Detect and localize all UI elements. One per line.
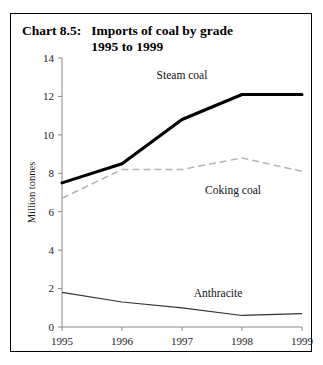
y-tick-label: 10 <box>43 129 55 141</box>
x-tick-label: 1999 <box>291 335 313 347</box>
series-line-anthracite <box>62 292 302 315</box>
y-tick-label: 12 <box>43 90 54 102</box>
plot-area: 02468101214 19951996199719981999 Million… <box>11 14 313 353</box>
y-axis-ticks: 02468101214 <box>43 52 62 333</box>
x-tick-label: 1997 <box>171 335 194 347</box>
x-tick-label: 1996 <box>111 335 134 347</box>
series-label-steam-coal: Steam coal <box>157 69 208 81</box>
y-tick-label: 0 <box>49 321 55 333</box>
y-tick-label: 2 <box>49 282 55 294</box>
y-tick-label: 6 <box>49 206 55 218</box>
y-axis-title: Million tonnes <box>26 162 37 224</box>
series-label-coking-coal: Coking coal <box>205 184 261 197</box>
series-label-anthracite: Anthracite <box>194 287 243 299</box>
series-annotations: Steam coalCoking coalAnthracite <box>157 69 261 299</box>
x-axis-ticks: 19951996199719981999 <box>51 327 313 347</box>
x-tick-label: 1995 <box>51 335 74 347</box>
series-line-coking-coal <box>62 158 302 198</box>
y-tick-label: 4 <box>49 244 55 256</box>
series-lines <box>62 95 302 316</box>
x-tick-label: 1998 <box>231 335 254 347</box>
y-tick-label: 8 <box>49 167 55 179</box>
line-chart-svg: 02468101214 19951996199719981999 Million… <box>11 14 313 353</box>
y-tick-label: 14 <box>43 52 55 64</box>
chart-frame: Chart 8.5: Imports of coal by grade 1995… <box>10 13 312 352</box>
